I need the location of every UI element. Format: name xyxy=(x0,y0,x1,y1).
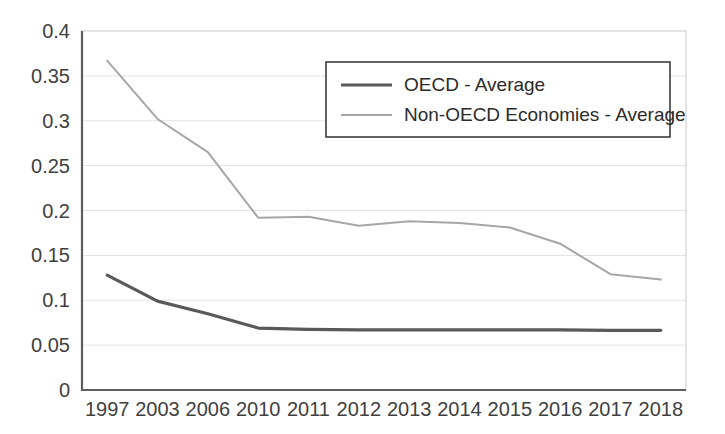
x-tick-label: 2013 xyxy=(387,398,432,420)
x-tick-label: 2014 xyxy=(437,398,482,420)
y-tick-label: 0.35 xyxy=(31,65,70,87)
line-chart: 00.050.10.150.20.250.30.350.4 1997200320… xyxy=(0,0,725,434)
legend-label-oecd: OECD - Average xyxy=(404,74,545,95)
x-tick-label: 2016 xyxy=(538,398,583,420)
y-tick-label: 0 xyxy=(59,379,70,401)
chart-legend: OECD - Average Non-OECD Economies - Aver… xyxy=(326,62,686,137)
x-tick-label: 2010 xyxy=(236,398,281,420)
x-tick-label: 2011 xyxy=(287,398,330,420)
y-tick-label: 0.4 xyxy=(42,20,70,42)
y-tick-label: 0.25 xyxy=(31,155,70,177)
y-tick-label: 0.2 xyxy=(42,200,70,222)
chart-canvas: 00.050.10.150.20.250.30.350.4 1997200320… xyxy=(0,0,725,434)
x-tick-label: 1997 xyxy=(85,398,130,420)
y-tick-label: 0.1 xyxy=(42,289,70,311)
x-tick-label: 2012 xyxy=(337,398,382,420)
x-tick-label: 2018 xyxy=(639,398,684,420)
legend-label-non-oecd: Non-OECD Economies - Average xyxy=(404,104,686,125)
x-tick-label: 2017 xyxy=(588,398,633,420)
y-tick-label: 0.15 xyxy=(31,244,70,266)
y-tick-label: 0.05 xyxy=(31,334,70,356)
x-tick-label: 2003 xyxy=(135,398,180,420)
x-tick-label: 2006 xyxy=(186,398,231,420)
y-tick-label: 0.3 xyxy=(42,110,70,132)
x-tick-label: 2015 xyxy=(488,398,533,420)
